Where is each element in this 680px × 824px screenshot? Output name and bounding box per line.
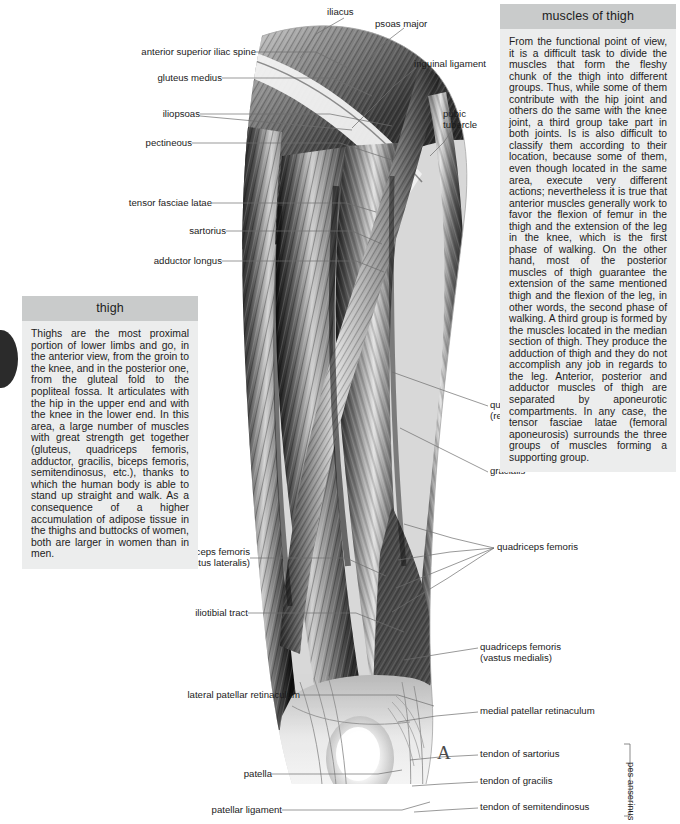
figure-marker-a: A <box>437 742 451 764</box>
label-patella: patella <box>44 768 272 779</box>
label-adductor-longus: adductor longus <box>44 255 222 266</box>
label-medial-patellar-retinaculum: medial patellar retinaculum <box>480 705 595 716</box>
label-quadriceps-femoris-vastus-medialis: quadriceps femoris (vastus medialis) <box>480 641 561 663</box>
label-tendon-of-semitendinosus: tendon of semitendinosus <box>480 801 589 812</box>
label-sartorius: sartorius <box>44 225 226 236</box>
label-psoas-major: psoas major <box>375 18 427 29</box>
muscles-of-thigh-panel: muscles of thigh From the functional poi… <box>500 4 676 472</box>
label-iliopsoas: iliopsoas <box>44 108 200 119</box>
label-tendon-of-sartorius: tendon of sartorius <box>480 748 559 759</box>
label-iliacus: iliacus <box>327 6 354 17</box>
thigh-panel-title: thigh <box>22 296 198 321</box>
thumb-index-tab <box>0 330 18 388</box>
label-patellar-ligament: patellar ligament <box>44 804 282 815</box>
thigh-panel-body: Thighs are the most proximal portion of … <box>22 321 198 569</box>
label-inguinal-ligament: inguinal ligament <box>414 58 486 69</box>
muscles-of-thigh-panel-body: From the functional point of view, it is… <box>500 29 676 472</box>
label-pubic-tubercle: pubic tubercle <box>443 108 477 130</box>
label-pectineous: pectineous <box>44 137 192 148</box>
label-iliotibial-tract: iliotibial tract <box>44 607 248 618</box>
label-quadriceps-femoris: quadriceps femoris <box>497 541 578 552</box>
label-lateral-patellar-retinaculum: lateral patellar retinaculum <box>44 689 300 700</box>
muscles-of-thigh-panel-title: muscles of thigh <box>500 4 676 29</box>
thigh-panel: thigh Thighs are the most proximal porti… <box>22 296 198 569</box>
label-tendon-of-gracilis: tendon of gracilis <box>480 775 553 786</box>
pes-anserinus-caption: pes anserinus <box>626 762 637 820</box>
label-gluteus-medius: gluteus medius <box>44 72 222 83</box>
label-tensor-fasciae-latae: tensor fasciae latae <box>44 197 212 208</box>
label-anterior-superior-iliac-spine: anterior superior iliac spine <box>44 46 256 57</box>
anatomy-plate-page: anterior superior iliac spine gluteus me… <box>0 0 680 824</box>
